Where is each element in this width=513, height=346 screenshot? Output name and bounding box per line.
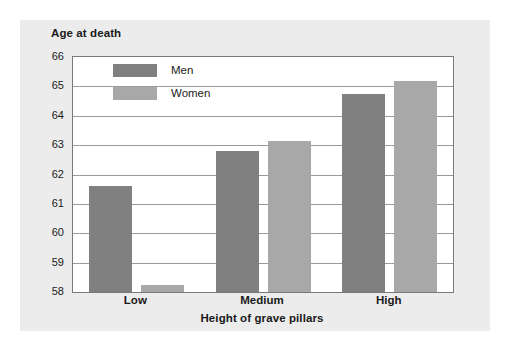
legend-swatch xyxy=(113,87,157,100)
y-axis-tick-label: 59 xyxy=(38,256,64,268)
y-axis-tick-label: 62 xyxy=(38,168,64,180)
y-axis-tick-label: 58 xyxy=(38,285,64,297)
x-axis-tick-label: Low xyxy=(124,294,147,306)
y-axis-tick-label: 66 xyxy=(38,50,64,62)
y-axis-tick-label: 63 xyxy=(38,138,64,150)
legend: MenWomen xyxy=(113,60,273,106)
legend-swatch xyxy=(113,64,157,77)
legend-label: Women xyxy=(171,87,210,99)
y-axis-tick-label: 64 xyxy=(38,109,64,121)
legend-item: Women xyxy=(113,83,273,103)
legend-item: Men xyxy=(113,60,273,80)
y-axis-tick-label: 60 xyxy=(38,226,64,238)
x-axis-tick-label: Medium xyxy=(240,294,283,306)
y-axis-tick-label: 65 xyxy=(38,79,64,91)
x-axis-tick-label: High xyxy=(376,294,402,306)
y-axis-tick-label: 61 xyxy=(38,197,64,209)
x-axis-tick-labels: LowMediumHigh xyxy=(72,294,452,312)
figure: Age at death 585960616263646566 MenWomen… xyxy=(0,0,513,346)
x-axis-title: Height of grave pillars xyxy=(72,312,452,324)
legend-label: Men xyxy=(171,64,193,76)
